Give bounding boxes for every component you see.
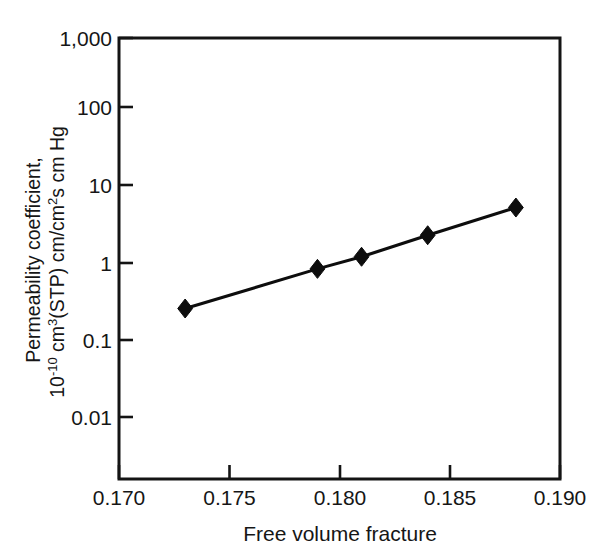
y-tick-label-100: 100 <box>77 96 112 119</box>
y-axis-title-exp-a: 3 <box>45 319 60 326</box>
y-tick-label-1: 1 <box>100 252 112 275</box>
chart-svg: 1,000 100 10 1 0.1 0.01 0.170 0.175 0.18… <box>0 0 599 557</box>
x-axis-title: Free volume fracture <box>243 522 437 545</box>
x-tick-label-0.180: 0.180 <box>314 486 367 509</box>
y-axis-title-rest-c: s cm Hg <box>46 126 68 198</box>
y-axis-title-exp-b: 2 <box>45 198 60 205</box>
y-axis-title-rest-a: cm <box>46 326 68 357</box>
x-tick-label-0.185: 0.185 <box>424 486 477 509</box>
x-tick-label-0.190: 0.190 <box>534 486 587 509</box>
y-axis-title-rest-b: (STP) cm/cm <box>46 205 68 319</box>
y-tick-label-10: 10 <box>89 174 112 197</box>
chart-figure: 1,000 100 10 1 0.1 0.01 0.170 0.175 0.18… <box>0 0 599 557</box>
y-tick-label-1000: 1,000 <box>59 27 112 50</box>
x-tick-label-0.170: 0.170 <box>93 486 146 509</box>
y-axis-title-exponent: -10 <box>45 357 60 376</box>
chart-background <box>0 0 599 557</box>
y-tick-label-0.01: 0.01 <box>71 406 112 429</box>
y-tick-label-0.1: 0.1 <box>83 329 112 352</box>
y-axis-title-line2: 10-10 cm3(STP) cm/cm2s cm Hg <box>45 126 68 398</box>
y-axis-title-prefix: 10 <box>46 376 68 398</box>
x-tick-label-0.175: 0.175 <box>203 486 256 509</box>
y-axis-title-line1: Permeability coefficient, <box>22 157 44 363</box>
